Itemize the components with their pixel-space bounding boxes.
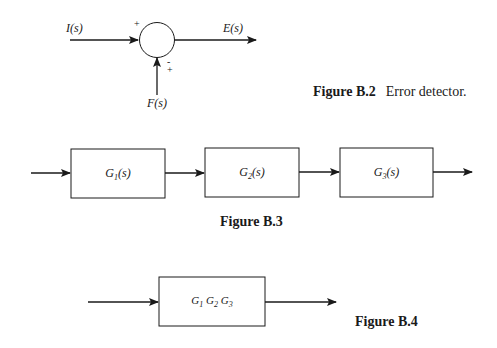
figure-b4-caption: Figure B.4	[355, 314, 418, 330]
caption-number: Figure B.2	[313, 84, 376, 99]
plus-sign: +	[134, 20, 140, 28]
figure-b3-caption: Figure B.3	[220, 214, 283, 230]
block-g1-label: G1(s)	[71, 166, 165, 182]
plus-sign-lower: +	[167, 66, 173, 74]
block-g1g2g3-label: G1 G2 G3	[159, 294, 265, 309]
feedback-label: F(s)	[147, 96, 167, 111]
caption-text: Error detector.	[386, 84, 467, 99]
block-g2-label: G2(s)	[205, 165, 299, 181]
output-label: E(s)	[223, 21, 243, 36]
input-label: I(s)	[66, 21, 83, 36]
block-g3-label: G3(s)	[340, 165, 433, 181]
summing-junction	[140, 23, 175, 58]
figure-b2-caption: Figure B.2Error detector.	[313, 84, 467, 100]
